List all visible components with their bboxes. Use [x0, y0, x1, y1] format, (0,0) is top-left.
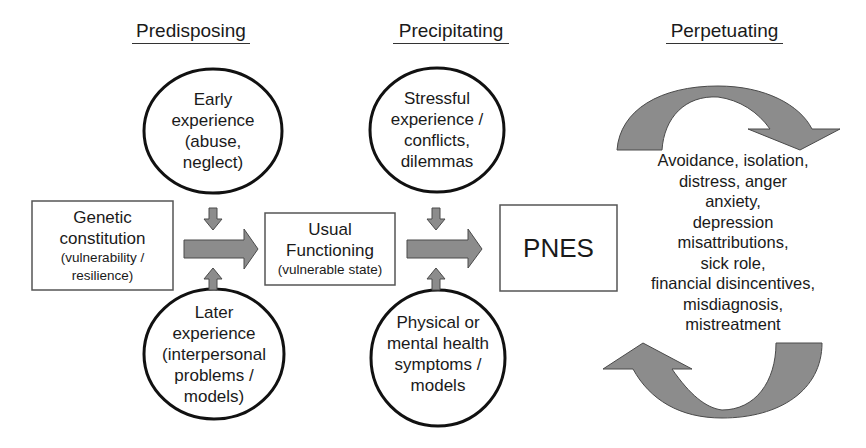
- later-experience-label: Later experience (interpersonal problems…: [144, 292, 284, 416]
- perpetuating-factor: Avoidance, isolation,: [657, 150, 808, 171]
- arrow-up-2-icon: [427, 268, 445, 290]
- arrow-up-1-icon: [204, 268, 222, 290]
- cycle-arrow-top-icon: [617, 86, 840, 150]
- arrow-right-1-icon: [184, 229, 258, 269]
- perpetuating-factor: financial disincentives,: [651, 273, 815, 294]
- arrow-down-2-icon: [427, 208, 445, 230]
- perpetuating-factor: depression: [693, 212, 774, 233]
- perpetuating-factor: misattributions,: [678, 232, 789, 253]
- perpetuating-factor: mistreatment: [685, 314, 780, 335]
- stressful-experience-label: Stressful experience / conflicts, dilemm…: [372, 74, 502, 186]
- perpetuating-factors-list: Avoidance, isolation, distress, anger an…: [600, 150, 866, 342]
- cycle-arrow-bottom-icon: [603, 343, 822, 418]
- perpetuating-factor: sick role,: [700, 253, 765, 274]
- perpetuating-factor: misdiagnosis,: [683, 294, 783, 315]
- perpetuating-factor: anxiety,: [705, 191, 761, 212]
- physical-health-label: Physical or mental health symptoms / mod…: [373, 304, 503, 404]
- arrow-down-1-icon: [204, 208, 222, 230]
- arrow-right-2-icon: [407, 229, 482, 268]
- usual-functioning-label: Usual Functioning (vulnerable state): [265, 214, 395, 284]
- early-experience-label: Early experience (abuse, neglect): [148, 75, 278, 187]
- genetic-constitution-label: Genetic constitution (vulnerability / re…: [32, 203, 173, 289]
- perpetuating-factor: distress, anger: [679, 171, 787, 192]
